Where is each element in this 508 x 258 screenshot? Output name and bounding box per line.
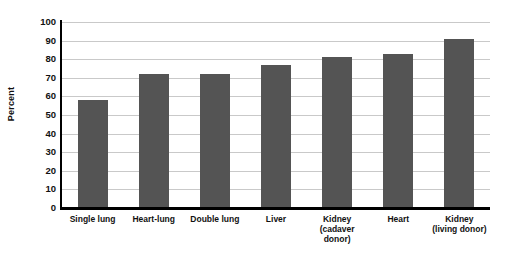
bar	[322, 57, 352, 208]
y-axis-tick: 100	[40, 17, 56, 27]
y-axis-tick: 30	[45, 147, 56, 157]
y-axis-tick: 0	[51, 203, 56, 213]
y-axis-title: Percent	[0, 0, 22, 208]
x-axis-tick: Heart-lung	[123, 214, 184, 224]
bar	[139, 74, 169, 208]
x-axis-tick-labels: Single lungHeart-lungDouble lungLiverKid…	[62, 214, 490, 258]
y-axis-tick: 90	[45, 36, 56, 46]
y-axis-tick: 40	[45, 129, 56, 139]
bar	[78, 100, 108, 208]
x-axis-tick-line2: (living donor)	[429, 224, 490, 234]
x-axis-tick: Kidney(living donor)	[429, 214, 490, 234]
bar	[383, 54, 413, 208]
bar	[261, 65, 291, 208]
y-axis-tick: 70	[45, 73, 56, 83]
x-axis-tick: Double lung	[184, 214, 245, 224]
bar-chart: Percent 1009080706050403020100 Single lu…	[0, 0, 508, 258]
bar	[444, 39, 474, 208]
plot-area	[62, 22, 490, 208]
y-axis-title-label: Percent	[6, 87, 16, 121]
bars-layer	[62, 22, 490, 208]
y-axis-tick-labels: 1009080706050403020100	[24, 22, 60, 208]
y-axis-tick: 10	[45, 185, 56, 195]
y-axis-line	[60, 20, 62, 210]
x-axis-tick-line2: (cadaver donor)	[307, 224, 368, 244]
y-axis-tick: 60	[45, 92, 56, 102]
x-axis-tick: Single lung	[62, 214, 123, 224]
x-axis-tick: Heart	[368, 214, 429, 224]
x-axis-tick-line1: Liver	[266, 214, 286, 224]
y-axis-tick: 20	[45, 166, 56, 176]
x-axis-tick-line1: Double lung	[190, 214, 239, 224]
x-axis-line	[60, 207, 490, 210]
x-axis-tick-line1: Heart	[387, 214, 409, 224]
bar	[200, 74, 230, 208]
x-axis-tick: Liver	[245, 214, 306, 224]
x-axis-tick-line1: Kidney	[323, 214, 351, 224]
y-axis-tick: 80	[45, 54, 56, 64]
x-axis-tick-line1: Kidney	[445, 214, 473, 224]
x-axis-tick-line1: Heart-lung	[132, 214, 175, 224]
x-axis-tick-line1: Single lung	[70, 214, 116, 224]
y-axis-tick: 50	[45, 110, 56, 120]
x-axis-tick: Kidney(cadaver donor)	[307, 214, 368, 244]
